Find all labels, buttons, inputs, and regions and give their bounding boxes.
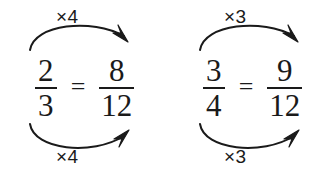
top-arrow-curve-icon xyxy=(30,26,124,50)
equals-sign: = xyxy=(239,72,254,104)
result-denominator: 12 xyxy=(267,90,302,121)
top-arrowhead-icon xyxy=(113,25,128,42)
bottom-arrowhead-icon xyxy=(114,130,129,147)
source-fraction: 2 3 xyxy=(35,55,57,121)
result-denominator: 12 xyxy=(99,90,134,121)
top-arrowhead-icon xyxy=(283,25,298,42)
equation-row-left: 2 3 = 8 12 xyxy=(0,52,167,124)
bottom-multiplier-label: ×4 xyxy=(56,146,79,168)
result-fraction: 8 12 xyxy=(99,55,134,121)
bottom-arrow-curve-icon xyxy=(200,124,294,148)
result-fraction: 9 12 xyxy=(267,55,302,121)
source-denominator: 3 xyxy=(36,90,56,121)
source-fraction: 3 4 xyxy=(203,55,225,121)
top-arrow-curve-icon xyxy=(200,26,294,50)
bottom-arrowhead-icon xyxy=(284,130,299,147)
bottom-arrow-curve-icon xyxy=(30,124,124,148)
equivalent-fractions-diagram: ×4 2 3 = 8 12 ×4 ×3 3 xyxy=(0,0,335,175)
source-numerator: 3 xyxy=(204,55,224,86)
top-multiplier-label: ×4 xyxy=(56,6,79,28)
result-numerator: 9 xyxy=(275,55,295,86)
source-numerator: 2 xyxy=(36,55,56,86)
bottom-multiplier-label: ×3 xyxy=(224,146,247,168)
result-numerator: 8 xyxy=(107,55,127,86)
top-multiplier-label: ×3 xyxy=(224,6,247,28)
source-denominator: 4 xyxy=(204,90,224,121)
equation-row-right: 3 4 = 9 12 xyxy=(168,52,335,124)
fraction-group-left: ×4 2 3 = 8 12 ×4 xyxy=(0,0,167,175)
fraction-group-right: ×3 3 4 = 9 12 ×3 xyxy=(168,0,335,175)
equals-sign: = xyxy=(71,72,86,104)
